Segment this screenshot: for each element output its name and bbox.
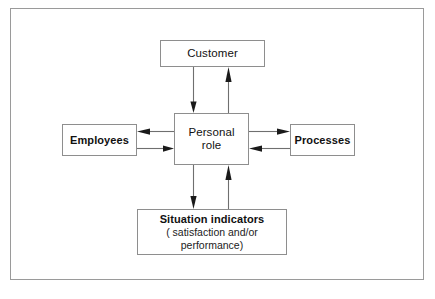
node-personal-role-label-line2: role bbox=[202, 139, 222, 152]
node-employees[interactable]: Employees bbox=[62, 124, 137, 156]
connector-customer-to-personal-role bbox=[190, 67, 196, 113]
node-processes[interactable]: Processes bbox=[290, 124, 355, 156]
node-employees-label: Employees bbox=[70, 134, 129, 147]
node-personal-role-label-line1: Personal bbox=[188, 126, 234, 139]
connector-employees-to-personal-role bbox=[137, 146, 174, 152]
node-personal-role[interactable]: Personal role bbox=[174, 113, 249, 165]
connector-personal-role-to-customer bbox=[225, 67, 231, 113]
node-situation-indicators-sub-line2: performance) bbox=[181, 239, 243, 252]
connector-personal-role-to-employees bbox=[137, 129, 174, 135]
diagram-canvas: Customer Personal role Employees Process… bbox=[0, 0, 435, 299]
node-processes-label: Processes bbox=[295, 134, 351, 147]
node-customer-label: Customer bbox=[187, 47, 238, 60]
connector-personal-role-to-situation-indicators bbox=[190, 165, 196, 209]
node-situation-indicators-sub-line1: ( satisfaction and/or bbox=[166, 226, 258, 239]
node-customer[interactable]: Customer bbox=[160, 40, 265, 67]
connector-processes-to-personal-role bbox=[249, 146, 290, 152]
connector-personal-role-to-processes bbox=[249, 129, 290, 135]
node-situation-indicators-label: Situation indicators bbox=[160, 213, 265, 226]
connector-situation-indicators-to-personal-role bbox=[225, 165, 231, 209]
node-situation-indicators[interactable]: Situation indicators ( satisfaction and/… bbox=[137, 209, 287, 255]
